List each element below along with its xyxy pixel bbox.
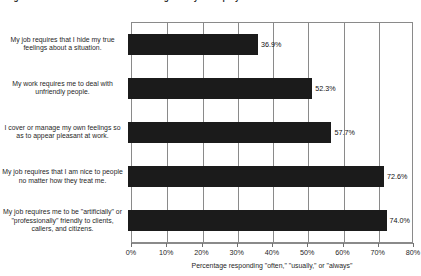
figure-title: Figure: Emotional labor demands among su… [6, 0, 415, 4]
x-tick-mark [307, 243, 308, 247]
x-tick-mark [131, 243, 132, 247]
x-tick-mark [166, 243, 167, 247]
bar [128, 122, 331, 143]
bar-rows: My job requires that I hide my true feel… [0, 22, 421, 243]
x-tick-mark [272, 243, 273, 247]
bar-track: 36.9% [128, 22, 410, 66]
bar-row: My job requires me to be "artificially" … [0, 199, 421, 243]
bar-value-label: 74.0% [390, 216, 410, 225]
bar-chart: Figure: Emotional labor demands among su… [0, 0, 421, 276]
bar-value-label: 72.6% [387, 172, 407, 181]
category-label: My job requires that I hide my true feel… [0, 36, 128, 53]
x-tick-label: 30% [217, 248, 257, 257]
category-label: My job requires that I am nice to people… [0, 168, 128, 185]
bar [128, 166, 384, 187]
x-tick-label: 60% [323, 248, 363, 257]
x-tick-label: 70% [358, 248, 398, 257]
category-label: My work requires me to deal with unfrien… [0, 80, 128, 97]
x-tick-label: 80% [393, 248, 421, 257]
bar [128, 34, 258, 55]
x-axis-ticks: 0%10%20%30%40%50%60%70%80% [0, 243, 421, 259]
bar-track: 72.6% [128, 155, 410, 199]
bar [128, 210, 387, 231]
bar-row: My work requires me to deal with unfrien… [0, 66, 421, 110]
bar-row: My job requires that I hide my true feel… [0, 22, 421, 66]
bar-track: 52.3% [128, 66, 410, 110]
x-tick-mark [343, 243, 344, 247]
bar-track: 74.0% [128, 199, 410, 243]
bar [128, 78, 312, 99]
bar-track: 57.7% [128, 110, 410, 154]
x-tick-label: 40% [252, 248, 292, 257]
bar-value-label: 52.3% [315, 84, 335, 93]
bar-value-label: 36.9% [261, 40, 281, 49]
x-axis-label: Percentage responding "often," "usually,… [131, 262, 413, 269]
category-label: My job requires me to be "artificially" … [0, 208, 128, 234]
x-tick-mark [378, 243, 379, 247]
bar-row: I cover or manage my own feelings so as … [0, 110, 421, 154]
bar-value-label: 57.7% [334, 128, 354, 137]
x-tick-mark [413, 243, 414, 247]
x-tick-mark [237, 243, 238, 247]
category-label: I cover or manage my own feelings so as … [0, 124, 128, 141]
x-tick-label: 50% [287, 248, 327, 257]
x-tick-label: 10% [146, 248, 186, 257]
x-tick-mark [202, 243, 203, 247]
x-tick-label: 0% [111, 248, 151, 257]
bar-row: My job requires that I am nice to people… [0, 155, 421, 199]
x-tick-label: 20% [182, 248, 222, 257]
